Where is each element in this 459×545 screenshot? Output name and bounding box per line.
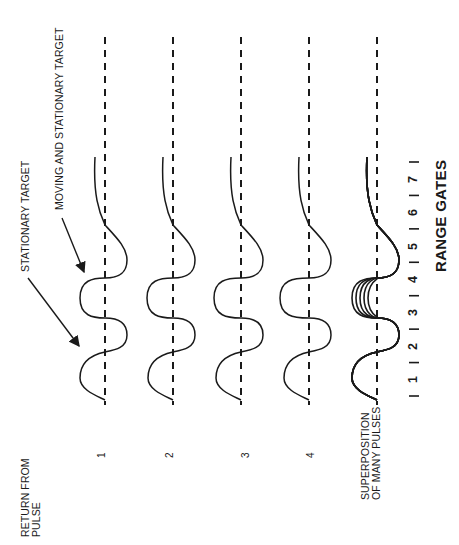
range-gate-number: 6 bbox=[406, 209, 420, 216]
traces-canvas bbox=[0, 0, 459, 545]
row-header-line2: PULSE bbox=[31, 458, 42, 537]
range-gates-title: RANGE GATES bbox=[432, 160, 449, 272]
superposition-line2: OF MANY PULSES bbox=[371, 407, 382, 500]
moving-target-arrow bbox=[62, 218, 84, 272]
stationary-target-label: STATIONARY TARGET bbox=[20, 161, 31, 272]
pulse-trace-2 bbox=[147, 157, 195, 400]
range-gate-number: 7 bbox=[406, 176, 420, 183]
pulse-label-1: 1 bbox=[96, 452, 107, 458]
range-gate-number: 3 bbox=[406, 309, 420, 316]
pulse-label-4: 4 bbox=[305, 452, 316, 458]
row-header: RETURN FROM PULSE bbox=[20, 458, 42, 537]
range-gate-number: 1 bbox=[406, 376, 420, 383]
radar-pulse-diagram: STATIONARY TARGET MOVING AND STATIONARY … bbox=[0, 0, 459, 545]
pulse-trace-4 bbox=[280, 157, 331, 400]
pulse-trace-1 bbox=[80, 157, 127, 400]
pulse-trace-3 bbox=[214, 157, 263, 400]
superposition-trace bbox=[352, 157, 399, 400]
pulse-label-2: 2 bbox=[164, 452, 175, 458]
range-gate-number: 4 bbox=[406, 276, 420, 283]
range-gate-number: 2 bbox=[406, 343, 420, 350]
superposition-label: SUPERPOSITION OF MANY PULSES bbox=[360, 407, 382, 500]
stationary-target-arrow bbox=[28, 278, 79, 346]
range-gate-number: 5 bbox=[406, 243, 420, 250]
pulse-label-3: 3 bbox=[240, 452, 251, 458]
moving-target-label: MOVING AND STATIONARY TARGET bbox=[54, 28, 65, 211]
